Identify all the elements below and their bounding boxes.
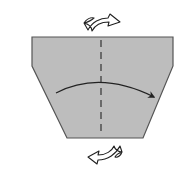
turn-over-icon-bottom — [88, 146, 122, 164]
origami-diagram — [0, 0, 184, 169]
turn-over-icon-top — [84, 14, 120, 31]
paper-shape — [32, 37, 173, 138]
